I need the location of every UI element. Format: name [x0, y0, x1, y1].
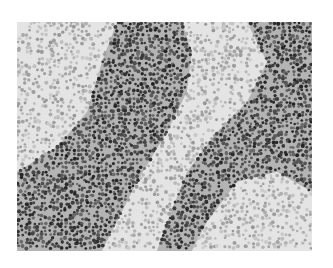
histology-micrograph [17, 22, 312, 251]
cell-texture [17, 22, 312, 251]
